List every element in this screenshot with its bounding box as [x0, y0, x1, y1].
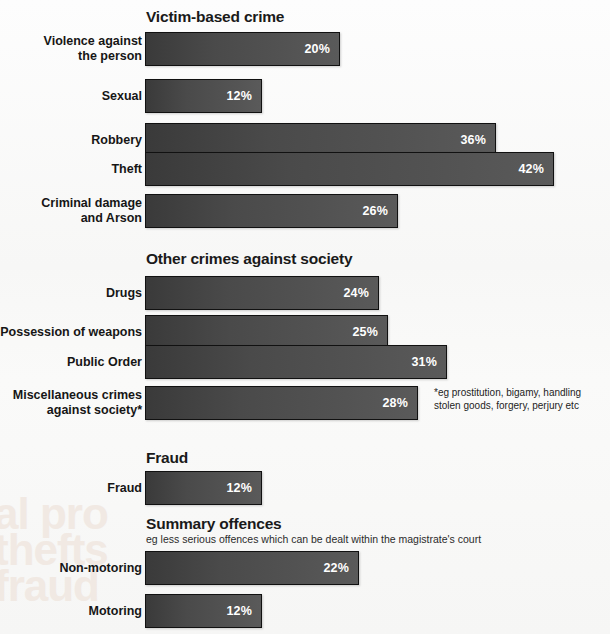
bar-value-theft: 42%	[518, 162, 544, 176]
footnote-miscellaneous-crimes: *eg prostitution, bigamy, handling stole…	[434, 387, 581, 412]
bar-value-drugs: 24%	[343, 286, 369, 300]
bar-possession-of-weapons[interactable]: 25%	[145, 315, 388, 349]
section-heading-other-crimes-against-society: Other crimes against society	[146, 250, 352, 268]
bar-value-miscellaneous-crimes-against-society: 28%	[382, 396, 408, 410]
bar-motoring[interactable]: 12%	[145, 594, 262, 628]
bar-theft[interactable]: 42%	[145, 152, 554, 186]
section-subtitle-summary-offences: eg less serious offences which can be de…	[146, 533, 481, 545]
bar-label-robbery: Robbery	[0, 133, 142, 148]
bar-drugs[interactable]: 24%	[145, 276, 379, 310]
bar-value-possession-of-weapons: 25%	[352, 325, 378, 339]
bar-label-fraud: Fraud	[0, 481, 142, 496]
bar-label-criminal-damage-and-arson: Criminal damage and Arson	[0, 196, 142, 226]
bar-value-robbery: 36%	[460, 133, 486, 147]
bar-label-public-order: Public Order	[0, 355, 142, 370]
bar-fraud[interactable]: 12%	[145, 471, 262, 505]
bar-label-sexual: Sexual	[0, 89, 142, 104]
bar-label-miscellaneous-crimes-against-society: Miscellaneous crimes against society*	[0, 388, 142, 418]
bar-miscellaneous-crimes-against-society[interactable]: 28%	[145, 386, 418, 420]
section-heading-victim-based-crime: Victim-based crime	[146, 8, 284, 26]
bar-label-non-motoring: Non-motoring	[0, 561, 142, 576]
bar-value-violence-against-the-person: 20%	[304, 42, 330, 56]
bar-value-public-order: 31%	[411, 355, 437, 369]
bar-violence-against-the-person[interactable]: 20%	[145, 32, 340, 66]
bar-label-motoring: Motoring	[0, 604, 142, 619]
bar-value-motoring: 12%	[226, 604, 252, 618]
crime-outcomes-bar-chart: Victim-based crime Violence against the …	[0, 0, 610, 634]
bar-sexual[interactable]: 12%	[145, 79, 262, 113]
section-heading-fraud: Fraud	[146, 449, 188, 467]
bar-value-fraud: 12%	[226, 481, 252, 495]
bar-public-order[interactable]: 31%	[145, 345, 447, 379]
bar-value-non-motoring: 22%	[323, 561, 349, 575]
bar-value-sexual: 12%	[226, 89, 252, 103]
bar-criminal-damage-and-arson[interactable]: 26%	[145, 194, 398, 228]
bar-value-criminal-damage-and-arson: 26%	[362, 204, 388, 218]
bar-label-possession-of-weapons: Possession of weapons	[0, 325, 142, 340]
bar-non-motoring[interactable]: 22%	[145, 551, 359, 585]
section-heading-summary-offences: Summary offences	[146, 515, 282, 533]
bar-label-theft: Theft	[0, 162, 142, 177]
bar-label-drugs: Drugs	[0, 286, 142, 301]
bar-label-violence-against-the-person: Violence against the person	[0, 34, 142, 64]
